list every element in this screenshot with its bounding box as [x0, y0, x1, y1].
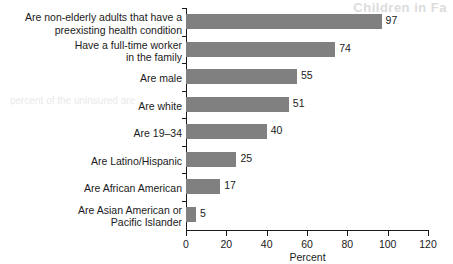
bar-row: 51: [186, 91, 428, 119]
bar-2: [186, 69, 297, 84]
x-axis-tick-label: 40: [261, 238, 273, 251]
bar-value-1: 74: [339, 41, 351, 56]
bar-row: 5: [186, 201, 428, 229]
category-label-2: Are male: [2, 72, 182, 85]
x-axis-title: Percent: [186, 251, 429, 264]
x-axis-tick-label: 60: [301, 238, 313, 251]
bar-row: 97: [186, 8, 428, 36]
x-axis-tick: [388, 231, 389, 236]
bar-value-5: 25: [240, 151, 252, 166]
bar-value-2: 55: [301, 68, 313, 83]
x-axis-tick: [347, 231, 348, 236]
x-axis-tick-label: 0: [183, 238, 189, 251]
bar-row: 40: [186, 118, 428, 146]
x-axis-tick: [307, 231, 308, 236]
category-label-5: Are Latino/Hispanic: [2, 155, 182, 168]
bar-value-7: 5: [200, 206, 206, 221]
category-label-4: Are 19–34: [2, 127, 182, 140]
bar-0: [186, 14, 382, 29]
bar-chart: Children in Fa percent of the uninsured …: [0, 0, 453, 264]
x-axis-tick-label: 20: [220, 238, 232, 251]
bar-row: 55: [186, 63, 428, 91]
bar-value-3: 51: [293, 96, 305, 111]
category-label-7: Are Asian American or Pacific Islander: [2, 204, 182, 229]
x-axis-tick-label: 100: [379, 238, 397, 251]
bar-value-6: 17: [224, 178, 236, 193]
x-axis-tick: [186, 231, 187, 236]
bar-value-0: 97: [386, 13, 398, 28]
bar-row: 17: [186, 173, 428, 201]
bar-6: [186, 179, 220, 194]
category-label-0: Are non-elderly adults that have a preex…: [2, 11, 182, 36]
bar-5: [186, 152, 236, 167]
bar-value-4: 40: [271, 123, 283, 138]
category-label-1: Have a full-time worker in the family: [2, 39, 182, 64]
x-axis-tick-label: 80: [341, 238, 353, 251]
category-label-3: Are white: [2, 100, 182, 113]
bar-row: 25: [186, 146, 428, 174]
x-axis-tick-label: 120: [419, 238, 437, 251]
bar-7: [186, 207, 196, 222]
bar-row: 74: [186, 36, 428, 64]
bar-4: [186, 124, 267, 139]
category-label-6: Are African American: [2, 182, 182, 195]
bar-1: [186, 42, 335, 57]
plot-area: 97 74 55 51 40 25 17 5: [186, 8, 428, 230]
bar-3: [186, 97, 289, 112]
x-axis-tick: [428, 231, 429, 236]
x-axis-tick: [226, 231, 227, 236]
x-axis-tick: [267, 231, 268, 236]
